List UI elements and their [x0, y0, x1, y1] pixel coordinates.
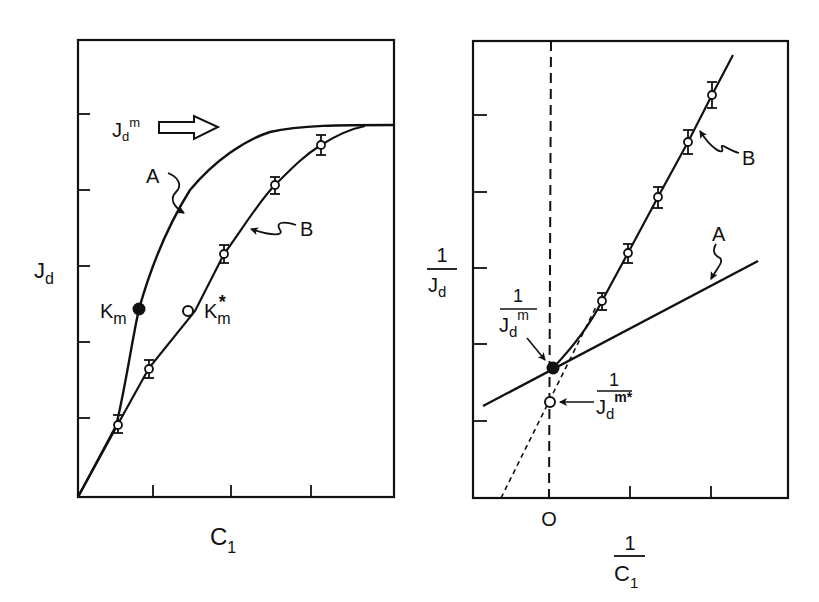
svg-text:1: 1: [436, 244, 447, 266]
right-y-ticks: [473, 115, 487, 421]
jdm-annotation: Jdm: [112, 115, 218, 144]
figure: Jdm A B Km Km* Jd C1: [0, 0, 819, 602]
data-point-b5: [270, 177, 280, 194]
curve-b-label: B: [300, 218, 313, 240]
right-y-axis-label: 1 Jd: [427, 244, 457, 300]
svg-text:Jd: Jd: [428, 274, 446, 300]
km-label: Km: [100, 300, 127, 327]
data-point-b6: [316, 135, 326, 155]
kmstar-label: Km*: [204, 292, 231, 327]
zero-dashed-line: [549, 41, 551, 498]
squiggle-arrow-rb-icon: [700, 131, 739, 153]
svg-text:Jdm*: Jdm*: [596, 389, 633, 422]
intercept-jdm-marker: [547, 362, 560, 375]
svg-text:1: 1: [609, 370, 619, 390]
left-plot-frame: [78, 40, 394, 497]
left-x-ticks: [153, 485, 311, 497]
kmstar-marker: [183, 306, 193, 316]
curve-a-label: A: [146, 165, 160, 187]
svg-text:1: 1: [624, 532, 635, 554]
intercept-jdm-star-marker: [545, 397, 555, 407]
squiggle-arrow-ra-icon: [711, 244, 721, 279]
svg-text:Jdm: Jdm: [499, 307, 529, 340]
x-tick-zero-label: O: [541, 508, 557, 530]
squiggle-arrow-b-icon: [251, 223, 296, 235]
svg-text:Jdm: Jdm: [112, 115, 140, 144]
intercept-jdm-label: 1 Jdm: [499, 286, 545, 360]
left-x-axis-label: C1: [210, 523, 236, 556]
svg-text:1: 1: [513, 286, 523, 306]
left-panel: Jdm A B Km Km* Jd C1: [34, 40, 394, 556]
line-b-label: B: [742, 147, 755, 169]
squiggle-arrow-a-icon: [168, 173, 184, 213]
arrow-to-jdm-icon: [527, 338, 545, 360]
curve-b-points: [113, 135, 326, 433]
intercept-jdm-star-label: 1 Jdm*: [560, 370, 633, 422]
hollow-arrow-icon: [159, 116, 218, 139]
right-x-ticks: [630, 486, 711, 498]
km-marker: [133, 303, 146, 316]
line-a: [483, 261, 758, 406]
svg-text:C1: C1: [614, 561, 638, 591]
line-a-label: A: [712, 223, 726, 245]
right-x-axis-label: 1 C1: [614, 532, 645, 591]
right-panel: 1 Jdm 1 Jdm* B A O 1 Jd 1 C1: [427, 41, 788, 591]
left-y-axis-label: Jd: [34, 258, 54, 287]
left-y-ticks: [78, 114, 90, 418]
